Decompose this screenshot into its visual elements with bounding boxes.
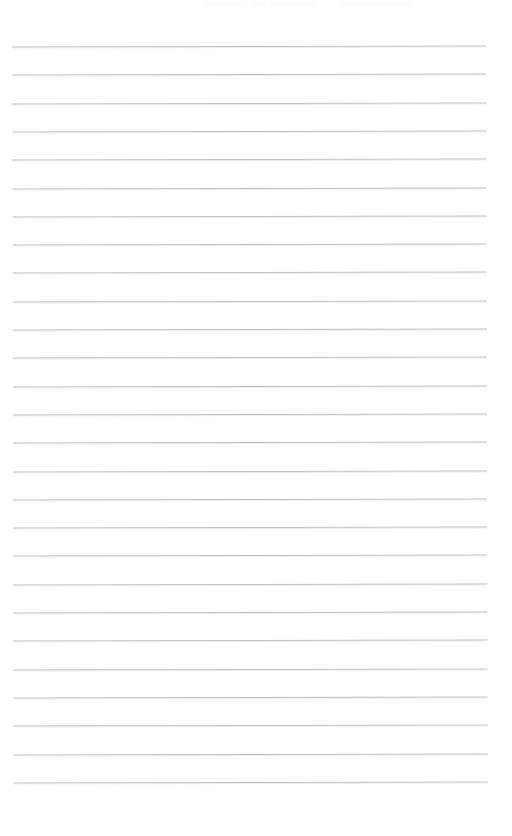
ruled-line [13,413,487,415]
ruled-line [13,640,487,642]
ruled-line [13,272,487,274]
ruled-line [14,725,488,727]
ruled-line [13,244,487,246]
ruled-line [12,46,486,48]
ruled-line [13,385,487,387]
ruled-line [14,696,488,698]
ruled-line [13,470,487,472]
ruled-line [14,753,488,755]
scanned-page [0,0,512,836]
ruled-line [13,555,487,557]
ruled-line [14,668,488,670]
ruled-line [13,215,487,217]
ruled-line [13,357,487,359]
ruled-line [13,498,487,500]
ruled-line [12,159,486,161]
ruled-line [14,781,488,783]
ruled-line [13,329,487,331]
ruled-line [13,442,487,444]
ruled-line [13,527,487,529]
ruled-line [12,102,486,104]
ruled-line [13,187,487,189]
ruled-lines-group [0,0,512,836]
ruled-line [13,583,487,585]
ruled-line [13,300,487,302]
ruled-line [12,130,486,132]
ruled-line [13,612,487,614]
ruled-line [12,74,486,76]
